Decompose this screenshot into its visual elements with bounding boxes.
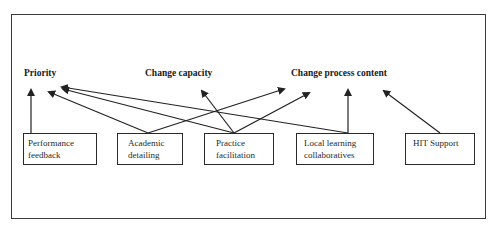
intervention-label-line2: facilitation — [216, 149, 269, 161]
intervention-label-line1: Academic — [128, 137, 178, 149]
connector-arrows — [0, 0, 494, 229]
intervention-label-line2: detailing — [128, 149, 178, 161]
intervention-label-line1: Local learning — [304, 137, 369, 149]
edge-hit-support-to-change-process-content — [384, 91, 440, 133]
intervention-label-line1: Performance — [28, 137, 92, 149]
edge-practice-facilitation-to-change-process-content — [234, 93, 309, 133]
edge-academic-detailing-to-change-process-content — [148, 89, 284, 133]
intervention-academic-detailing: Academic detailing — [117, 133, 183, 165]
intervention-local-learning-collaboratives: Local learning collaboratives — [296, 133, 374, 165]
intervention-label-line1: HIT Support — [413, 137, 470, 149]
intervention-practice-facilitation: Practice facilitation — [204, 133, 274, 165]
intervention-label-line2: collaboratives — [304, 149, 369, 161]
intervention-hit-support: HIT Support — [405, 133, 475, 165]
intervention-label-line2: feedback — [28, 149, 92, 161]
intervention-performance-feedback: Performance feedback — [23, 133, 97, 165]
intervention-label-line1: Practice — [216, 137, 269, 149]
